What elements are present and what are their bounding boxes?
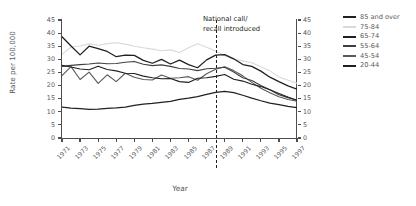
y-tick-left-20 — [58, 85, 61, 86]
y-tick-left-25 — [58, 72, 61, 73]
y-tick-label-right-15: 15 — [303, 95, 311, 101]
event-marker-line — [216, 20, 217, 168]
y-tick-left-15 — [58, 98, 61, 99]
x-tick-1981 — [152, 139, 153, 142]
series-line-20-44 — [62, 91, 297, 109]
x-tick-1979 — [134, 139, 135, 142]
y-tick-label-left-30: 30 — [47, 56, 55, 62]
plot-area — [62, 20, 297, 138]
y-tick-left-10 — [58, 111, 61, 112]
y-tick-left-30 — [58, 59, 61, 60]
x-tick-1989 — [224, 139, 225, 142]
y-tick-label-right-25: 25 — [303, 69, 311, 75]
legend-swatch-icon — [343, 45, 356, 47]
legend-item-85-and-over[interactable]: 85 and over — [343, 14, 400, 21]
y-tick-right-20 — [298, 85, 301, 86]
legend-label: 20-44 — [360, 62, 379, 69]
legend-item-75-84[interactable]: 75-84 — [343, 24, 400, 31]
legend-label: 85 and over — [360, 14, 400, 21]
y-tick-label-left-45: 45 — [47, 17, 55, 23]
y-tick-label-left-5: 5 — [51, 122, 55, 128]
y-tick-right-45 — [298, 19, 301, 20]
data-lines — [62, 20, 297, 138]
legend-swatch-icon — [343, 36, 356, 38]
legend-swatch-icon — [343, 65, 356, 67]
event-annotation-line-1: National call/ — [203, 15, 260, 25]
y-tick-label-right-35: 35 — [303, 43, 311, 49]
event-annotation-line-2: recall introduced — [203, 25, 260, 35]
x-tick-1995 — [278, 139, 279, 142]
y-tick-label-left-40: 40 — [47, 30, 55, 36]
legend-label: 45-54 — [360, 53, 379, 60]
y-tick-right-10 — [298, 111, 301, 112]
legend-item-20-44[interactable]: 20-44 — [343, 62, 400, 69]
legend-item-55-64[interactable]: 55-64 — [343, 43, 400, 50]
y-tick-right-25 — [298, 72, 301, 73]
legend-swatch-icon — [343, 16, 356, 18]
legend-swatch-icon — [343, 55, 356, 57]
legend-swatch-icon — [343, 26, 356, 28]
x-tick-1985 — [188, 139, 189, 142]
legend-label: 75-84 — [360, 24, 379, 31]
y-tick-label-left-15: 15 — [47, 95, 55, 101]
y-tick-label-left-35: 35 — [47, 43, 55, 49]
y-tick-left-45 — [58, 19, 61, 20]
y-tick-label-right-40: 40 — [303, 30, 311, 36]
chart-figure: Rate per 100,000 Year 051015202530354045… — [0, 0, 416, 206]
x-tick-1993 — [260, 139, 261, 142]
legend-label: 55-64 — [360, 43, 379, 50]
legend: 85 and over75-8465-7455-6445-5420-44 — [343, 14, 400, 69]
x-tick-1977 — [116, 139, 117, 142]
y-tick-label-right-30: 30 — [303, 56, 311, 62]
x-tick-label-1971: 1971 — [39, 145, 72, 178]
y-tick-right-15 — [298, 98, 301, 99]
x-tick-1975 — [98, 139, 99, 142]
y-tick-right-35 — [298, 46, 301, 47]
x-tick-1987 — [206, 139, 207, 142]
y-tick-left-5 — [58, 124, 61, 125]
y-tick-label-left-20: 20 — [47, 82, 55, 88]
y-tick-label-right-0: 0 — [303, 135, 307, 141]
y-tick-right-5 — [298, 124, 301, 125]
y-tick-right-40 — [298, 33, 301, 34]
y-tick-label-right-5: 5 — [303, 122, 307, 128]
x-tick-1973 — [79, 139, 80, 142]
legend-item-65-74[interactable]: 65-74 — [343, 33, 400, 40]
legend-label: 65-74 — [360, 33, 379, 40]
legend-item-45-54[interactable]: 45-54 — [343, 53, 400, 60]
x-tick-1971 — [61, 139, 62, 142]
y-tick-label-right-45: 45 — [303, 17, 311, 23]
y-axis-title: Rate per 100,000 — [8, 23, 17, 103]
y-tick-label-left-10: 10 — [47, 109, 55, 115]
x-axis-title: Year — [120, 184, 240, 193]
y-tick-right-30 — [298, 59, 301, 60]
y-tick-label-left-0: 0 — [51, 135, 55, 141]
x-tick-1997 — [296, 139, 297, 142]
x-tick-1983 — [170, 139, 171, 142]
y-tick-label-right-20: 20 — [303, 82, 311, 88]
event-annotation-label: National call/recall introduced — [203, 15, 260, 34]
y-tick-label-right-10: 10 — [303, 109, 311, 115]
x-tick-1991 — [242, 139, 243, 142]
y-tick-right-0 — [298, 137, 301, 138]
y-tick-left-35 — [58, 46, 61, 47]
y-tick-left-40 — [58, 33, 61, 34]
x-axis — [61, 138, 298, 139]
y-tick-label-left-25: 25 — [47, 69, 55, 75]
